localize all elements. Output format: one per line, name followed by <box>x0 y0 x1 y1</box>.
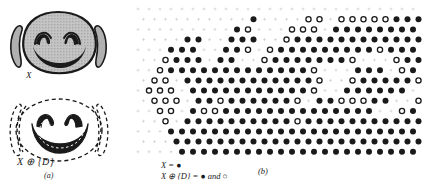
lattice-empty-tick <box>170 8 173 11</box>
lattice-open-dot <box>289 27 294 32</box>
lattice-filled-dot <box>388 47 394 53</box>
lattice-filled-dot <box>355 149 361 155</box>
lattice-dot-grid <box>130 0 425 160</box>
lattice-filled-dot <box>245 128 251 134</box>
lattice-open-dot <box>168 108 173 113</box>
lattice-empty-tick <box>137 28 140 31</box>
lattice-filled-dot <box>234 149 240 155</box>
lattice-empty-tick <box>208 18 211 21</box>
lattice-filled-dot <box>339 118 345 124</box>
lattice-empty-tick <box>258 8 261 11</box>
lattice-filled-dot <box>339 139 345 145</box>
lattice-filled-dot <box>207 77 213 83</box>
lattice-empty-tick <box>153 120 156 123</box>
lattice-filled-dot <box>245 67 251 73</box>
lattice-filled-dot <box>196 139 202 145</box>
lattice-empty-tick <box>142 99 145 102</box>
lattice-open-dot <box>383 17 388 22</box>
lattice-open-dot <box>350 17 355 22</box>
lattice-filled-dot <box>185 57 191 63</box>
lattice-filled-dot <box>416 16 422 22</box>
lattice-empty-tick <box>197 18 200 21</box>
lattice-filled-dot <box>207 98 213 104</box>
lattice-filled-dot <box>179 128 185 134</box>
lattice-filled-dot <box>256 108 262 114</box>
lattice-empty-tick <box>269 8 272 11</box>
lattice-empty-tick <box>142 18 145 21</box>
lattice-filled-dot <box>366 47 372 53</box>
lattice-filled-dot <box>295 139 301 145</box>
lattice-filled-dot <box>317 118 323 124</box>
lattice-empty-tick <box>170 28 173 31</box>
lattice-filled-dot <box>196 98 202 104</box>
lattice-filled-dot <box>240 118 246 124</box>
lattice-filled-dot <box>212 149 218 155</box>
lattice-empty-tick <box>329 18 332 21</box>
lattice-filled-dot <box>300 47 306 53</box>
lattice-empty-tick <box>148 48 151 51</box>
lattice-filled-dot <box>399 47 405 53</box>
lattice-empty-tick <box>285 18 288 21</box>
lattice-empty-tick <box>225 28 228 31</box>
lattice-empty-tick <box>412 89 415 92</box>
lattice-filled-dot <box>306 118 312 124</box>
lattice-filled-dot <box>234 88 240 94</box>
lattice-filled-dot <box>218 57 224 63</box>
lattice-filled-dot <box>328 139 334 145</box>
lattice-filled-dot <box>377 26 383 32</box>
lattice-empty-tick <box>153 59 156 62</box>
lattice-filled-dot <box>278 149 284 155</box>
lattice-empty-tick <box>263 38 266 41</box>
lattice-filled-dot <box>394 139 400 145</box>
lattice-filled-dot <box>399 88 405 94</box>
lattice-empty-tick <box>230 18 233 21</box>
lattice-filled-dot <box>190 47 196 53</box>
lattice-empty-tick <box>181 8 184 11</box>
lattice-filled-dot <box>201 88 207 94</box>
lattice-filled-dot <box>416 139 422 145</box>
lattice-filled-dot <box>394 37 400 43</box>
lattice-filled-dot <box>267 149 273 155</box>
lattice-empty-tick <box>291 8 294 11</box>
lattice-filled-dot <box>416 37 422 43</box>
lattice-filled-dot <box>317 139 323 145</box>
lattice-filled-dot <box>366 26 372 32</box>
label-original-x: X <box>26 70 32 80</box>
lattice-empty-tick <box>164 38 167 41</box>
lattice-filled-dot <box>256 149 262 155</box>
lattice-filled-dot <box>289 108 295 114</box>
lattice-empty-tick <box>142 38 145 41</box>
lattice-empty-tick <box>192 8 195 11</box>
lattice-filled-dot <box>328 57 334 63</box>
lattice-filled-dot <box>207 118 213 124</box>
lattice-empty-tick <box>357 8 360 11</box>
lattice-filled-dot <box>355 128 361 134</box>
lattice-filled-dot <box>256 128 262 134</box>
lattice-filled-dot <box>306 57 312 63</box>
lattice-filled-dot <box>284 118 290 124</box>
lattice-filled-dot <box>251 118 257 124</box>
lattice-filled-dot <box>179 47 185 53</box>
lattice-filled-dot <box>350 118 356 124</box>
lattice-open-dot <box>157 68 162 73</box>
lattice-filled-dot <box>377 88 383 94</box>
lattice-empty-tick <box>274 18 277 21</box>
lattice-filled-dot <box>300 128 306 134</box>
legend-dilation-text: X ⊕ {D} = <box>161 171 200 181</box>
lattice-empty-tick <box>153 38 156 41</box>
lattice-filled-dot <box>344 128 350 134</box>
lattice-empty-tick <box>346 8 349 11</box>
lattice-filled-dot <box>185 77 191 83</box>
lattice-filled-dot <box>256 67 262 73</box>
lattice-empty-tick <box>159 8 162 11</box>
lattice-open-dot <box>201 108 206 113</box>
lattice-filled-dot <box>251 16 257 22</box>
lattice-filled-dot <box>267 128 273 134</box>
lattice-empty-tick <box>379 110 382 113</box>
lattice-filled-dot <box>234 108 240 114</box>
lattice-open-dot <box>350 78 355 83</box>
lattice-empty-tick <box>241 18 244 21</box>
dilation-figure: X X ⊕ {D} (a) X = ● X ⊕ {D} = ● and ○ (b… <box>0 0 425 196</box>
lattice-filled-dot <box>300 67 306 73</box>
lattice-filled-dot <box>218 118 224 124</box>
